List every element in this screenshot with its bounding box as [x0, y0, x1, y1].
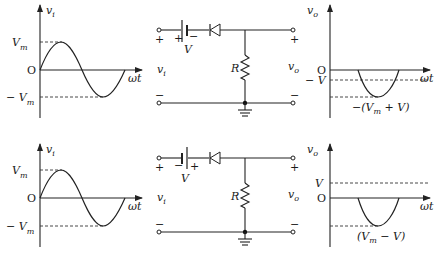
- output-waveform-graph-1: vo O ωt − V −(Vm + V): [305, 4, 434, 118]
- input-terminal-top: [157, 28, 161, 32]
- resistor-label: R: [230, 62, 239, 75]
- level-label: − V: [305, 74, 327, 87]
- row-2: vi Vm O ωt − Vm: [6, 143, 434, 247]
- battery-left-sign: −: [174, 159, 183, 172]
- y-axis-label: vo: [307, 143, 318, 158]
- input-minus: −: [155, 89, 164, 102]
- input-minus: −: [155, 218, 164, 231]
- origin-label: O: [317, 192, 326, 205]
- diode-icon: [210, 24, 220, 36]
- min-label: (Vm − V): [357, 230, 405, 245]
- output-voltage-label: vo: [288, 60, 299, 75]
- input-terminal-top: [157, 156, 161, 160]
- resistor-icon: [241, 55, 249, 80]
- x-axis-label: ωt: [420, 72, 434, 85]
- output-terminal-top: [291, 28, 295, 32]
- input-voltage-label: vi: [157, 63, 166, 78]
- clipper-circuit-2: + − + V vi R + vo − −: [155, 147, 299, 245]
- origin-label: O: [27, 192, 36, 205]
- output-minus: −: [290, 89, 299, 102]
- peak-label: Vm: [12, 36, 28, 52]
- min-label: −(Vm + V): [352, 101, 410, 116]
- output-waveform-graph-2: vo V O ωt (Vm − V): [307, 143, 434, 247]
- battery-right-sign: +: [190, 160, 199, 173]
- resistor-icon: [241, 183, 249, 208]
- ground-icon: [238, 232, 252, 245]
- x-axis-label: ωt: [420, 200, 434, 213]
- trough-label: − Vm: [6, 220, 35, 236]
- x-axis-label: ωt: [128, 200, 142, 213]
- battery-right-sign: −: [189, 30, 198, 43]
- input-waveform-graph-2: vi Vm O ωt − Vm: [6, 143, 142, 247]
- input-plus: +: [155, 161, 164, 174]
- output-minus: −: [290, 218, 299, 231]
- input-waveform-graph-1: vi Vm O ωt − Vm: [6, 4, 142, 118]
- level-label: V: [315, 177, 324, 190]
- battery-label: V: [184, 43, 193, 56]
- battery-left-sign: +: [174, 32, 183, 45]
- y-axis-label: vo: [307, 4, 318, 19]
- clipped-output-wave: [358, 70, 399, 97]
- clipper-circuit-1: + + − V vi R + vo − −: [155, 20, 299, 116]
- trough-label: − Vm: [6, 91, 35, 107]
- output-terminal-top: [291, 156, 295, 160]
- clipped-output-wave: [358, 198, 399, 226]
- diode-icon: [210, 152, 220, 164]
- ground-icon: [238, 103, 252, 116]
- origin-label: O: [27, 64, 36, 77]
- resistor-label: R: [230, 190, 239, 203]
- output-plus: +: [290, 161, 299, 174]
- peak-label: Vm: [12, 164, 28, 180]
- output-plus: +: [290, 33, 299, 46]
- y-axis-label: vi: [46, 4, 55, 19]
- battery-label: V: [181, 172, 190, 185]
- input-plus: +: [155, 33, 164, 46]
- output-voltage-label: vo: [288, 188, 299, 203]
- y-axis-label: vi: [46, 143, 55, 158]
- row-1: vi Vm O ωt − Vm: [6, 4, 434, 118]
- x-axis-label: ωt: [128, 72, 142, 85]
- input-voltage-label: vi: [157, 191, 166, 206]
